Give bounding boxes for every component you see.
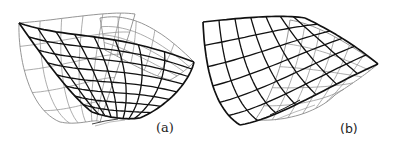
surface-b-front-v-line	[213, 38, 342, 86]
surface-a-front-v-line	[19, 23, 194, 62]
surface-a-back-v-line	[60, 121, 100, 123]
surface-a-front-u-line	[129, 45, 142, 119]
surface-plot-b	[203, 16, 378, 125]
surface-b-trough-line	[275, 105, 315, 120]
figure-canvas	[0, 0, 396, 151]
surface-a-back-u-line	[19, 23, 60, 122]
surface-a-back-v-line	[19, 13, 135, 23]
panel-label-a: (a)	[156, 120, 174, 135]
surface-plot-a	[19, 13, 194, 126]
surface-b-trough-line	[270, 100, 300, 115]
panel-label-b: (b)	[340, 121, 358, 136]
surface-b-back-v-line	[272, 83, 353, 88]
surface-a-trough-line	[95, 120, 125, 126]
surface-b-front-mesh	[203, 16, 378, 125]
surface-b-front-v-line	[229, 55, 367, 116]
surface-a-back-u-line	[91, 14, 103, 121]
surface-b-front-v-line	[205, 24, 318, 45]
